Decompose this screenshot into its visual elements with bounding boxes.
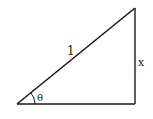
angle-label: θ [37, 92, 43, 103]
hypotenuse-label: 1 [67, 44, 75, 58]
opposite-label: x [138, 56, 145, 69]
hypotenuse-side [17, 8, 135, 104]
angle-arc [31, 93, 35, 104]
right-triangle-diagram: 1 x θ [0, 0, 153, 119]
